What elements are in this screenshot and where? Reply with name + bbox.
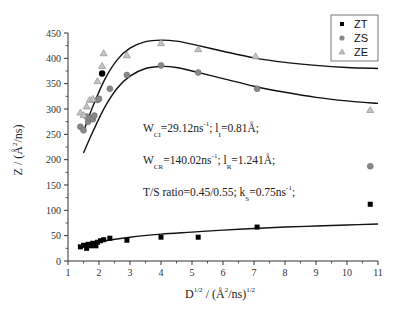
y-tick-label: 300 bbox=[46, 104, 61, 115]
x-tick-label: 4 bbox=[159, 267, 164, 278]
data-point-ze bbox=[367, 107, 374, 113]
highlight-point bbox=[99, 70, 105, 76]
square-marker-icon bbox=[340, 22, 344, 26]
x-tick-label: 5 bbox=[190, 267, 195, 278]
legend-label-zs: ZS bbox=[354, 32, 368, 44]
annotation-line-3: T/S ratio=0.45/0.55; kS=0.75ns-1; bbox=[143, 184, 295, 203]
data-points bbox=[77, 40, 374, 251]
x-tick-label: 9 bbox=[314, 267, 319, 278]
data-point-zt bbox=[255, 225, 260, 230]
legend-label-ze: ZE bbox=[354, 46, 368, 58]
y-tick-label: 400 bbox=[46, 53, 61, 64]
x-tick-label: 10 bbox=[342, 267, 352, 278]
y-tick-label: 150 bbox=[46, 180, 61, 191]
circle-marker-icon bbox=[339, 35, 344, 40]
y-tick-label: 0 bbox=[56, 256, 61, 267]
data-point-zt bbox=[159, 235, 164, 240]
y-tick-label: 450 bbox=[46, 28, 61, 39]
annotation-line-1: WCI=29.12ns-1; lI=0.81Å; bbox=[143, 120, 259, 139]
y-tick-label: 100 bbox=[46, 205, 61, 216]
x-tick-label: 1 bbox=[66, 267, 71, 278]
data-point-zt bbox=[124, 238, 129, 243]
legend-label-zt: ZT bbox=[354, 18, 368, 30]
data-point-zt bbox=[101, 237, 106, 242]
y-axis-title: Z / (Å2/ns) bbox=[11, 125, 25, 176]
x-axis-title: D1/2 / (Å2/ns)1/2 bbox=[185, 286, 256, 301]
x-tick-label: 11 bbox=[373, 267, 383, 278]
fit-curve-zs bbox=[84, 66, 379, 153]
data-point-zs bbox=[91, 113, 97, 119]
y-tick-label: 50 bbox=[51, 230, 61, 241]
data-point-ze bbox=[99, 62, 106, 68]
data-point-zs bbox=[107, 86, 113, 92]
data-point-zs bbox=[254, 86, 260, 92]
fit-curves bbox=[80, 40, 378, 246]
legend: ZT ZS ZE bbox=[331, 15, 378, 61]
data-point-zs bbox=[158, 62, 164, 68]
y-tick-label: 200 bbox=[46, 154, 61, 165]
x-tick-label: 7 bbox=[252, 267, 257, 278]
data-point-zs bbox=[96, 96, 102, 102]
data-point-zs bbox=[124, 72, 130, 78]
x-tick-label: 3 bbox=[128, 267, 133, 278]
data-point-ze bbox=[83, 103, 90, 109]
y-tick-label: 350 bbox=[46, 78, 61, 89]
data-point-ze bbox=[94, 78, 101, 84]
data-point-zs bbox=[195, 70, 201, 76]
parameter-annotations: WCI=29.12ns-1; lI=0.81Å; WCR=140.02ns-1;… bbox=[143, 120, 295, 203]
data-point-zt bbox=[196, 235, 201, 240]
data-point-zs bbox=[81, 127, 87, 133]
annotation-line-2: WCR=140.02ns-1; lR=1.241Å; bbox=[143, 152, 275, 171]
data-point-zt bbox=[368, 202, 373, 207]
x-tick-label: 6 bbox=[221, 267, 226, 278]
data-point-ze bbox=[100, 50, 107, 56]
data-point-zt bbox=[107, 236, 112, 241]
scatter-chart: 1234567891011050100150200250300350400450… bbox=[0, 0, 395, 319]
x-tick-label: 2 bbox=[97, 267, 102, 278]
data-point-zs bbox=[367, 163, 373, 169]
x-tick-label: 8 bbox=[283, 267, 288, 278]
data-point-ze bbox=[252, 53, 259, 59]
y-tick-label: 250 bbox=[46, 129, 61, 140]
